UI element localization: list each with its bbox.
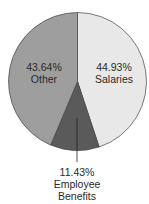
benefits-name-line1: Employee [42,178,112,190]
other-percent: 43.64% [16,61,72,73]
salaries-name: Salaries [86,73,142,85]
label-salaries: 44.93% Salaries [86,61,142,85]
salaries-percent: 44.93% [86,61,142,73]
label-employee-benefits: 11.43% Employee Benefits [42,166,112,202]
other-name: Other [16,73,72,85]
label-other: 43.64% Other [16,61,72,85]
benefits-percent: 11.43% [42,166,112,178]
benefits-name-line2: Benefits [42,190,112,202]
